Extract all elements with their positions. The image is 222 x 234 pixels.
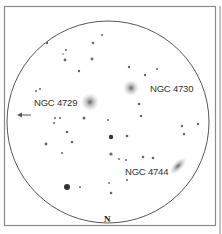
star: [144, 74, 146, 76]
star: [71, 141, 74, 144]
label-ngc-4729: NGC 4729: [34, 97, 77, 108]
star: [110, 192, 113, 195]
star: [125, 159, 127, 161]
star: [65, 49, 67, 51]
star: [126, 135, 129, 138]
star: [46, 42, 48, 44]
label-ngc-4744: NGC 4744: [125, 166, 168, 177]
star: [64, 184, 70, 190]
star: [181, 125, 183, 127]
star: [45, 143, 48, 146]
star: [101, 34, 103, 36]
star: [91, 58, 94, 61]
star: [35, 90, 37, 92]
star: [197, 123, 199, 125]
label-ngc-4730: NGC 4730: [150, 83, 193, 94]
star: [107, 119, 109, 121]
star: [62, 53, 64, 55]
star: [118, 158, 120, 160]
star: [126, 179, 128, 181]
star: [128, 66, 130, 68]
star: [183, 133, 185, 135]
star: [64, 59, 67, 62]
star: [83, 117, 86, 120]
star: [152, 157, 155, 160]
star: [61, 152, 63, 154]
star: [138, 103, 141, 106]
star: [53, 122, 55, 124]
star: [54, 117, 56, 119]
star: [92, 42, 95, 45]
star: [108, 182, 110, 184]
star: [66, 131, 69, 134]
galaxy-ngc-4729: [81, 93, 99, 111]
star: [59, 117, 61, 119]
star: [142, 156, 145, 159]
star: [140, 115, 142, 117]
north-label: N: [104, 214, 111, 224]
star: [109, 152, 112, 155]
star: [79, 186, 81, 188]
star: [156, 68, 158, 70]
galaxy-ngc-4730: [123, 80, 139, 96]
star: [109, 135, 113, 139]
eyepiece-sketch: [0, 0, 222, 234]
star: [78, 70, 80, 72]
star: [39, 88, 41, 90]
